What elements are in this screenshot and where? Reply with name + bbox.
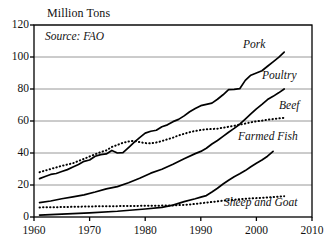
x-tick-label: 2010	[292, 224, 331, 236]
gridlines	[34, 25, 312, 185]
series-label-farmed-fish: Farmed Fish	[238, 130, 298, 142]
series-label-poultry: Poultry	[262, 69, 297, 81]
series-label-beef: Beef	[279, 99, 299, 111]
y-tick-label: 0	[3, 210, 29, 222]
series-line-poultry	[40, 89, 285, 203]
series-label-sheep-and-goat: Sheep and Goat	[224, 196, 297, 208]
series-line-pork	[40, 52, 285, 178]
x-tick-label: 1990	[181, 224, 221, 236]
x-tick-label: 1960	[14, 224, 54, 236]
y-tick-label: 100	[3, 50, 29, 62]
x-tick-label: 1970	[70, 224, 110, 236]
y-tick-label: 120	[3, 18, 29, 30]
x-tick-label: 2000	[236, 224, 276, 236]
y-tick-label: 60	[3, 114, 29, 126]
chart-plot-area	[0, 0, 331, 251]
series-label-pork: Pork	[243, 38, 265, 50]
y-tick-label: 80	[3, 82, 29, 94]
chart-container: Million Tons Source: FAO 020406080100120…	[0, 0, 331, 251]
y-tick-label: 20	[3, 178, 29, 190]
x-tick-label: 1980	[125, 224, 165, 236]
y-tick-label: 40	[3, 146, 29, 158]
